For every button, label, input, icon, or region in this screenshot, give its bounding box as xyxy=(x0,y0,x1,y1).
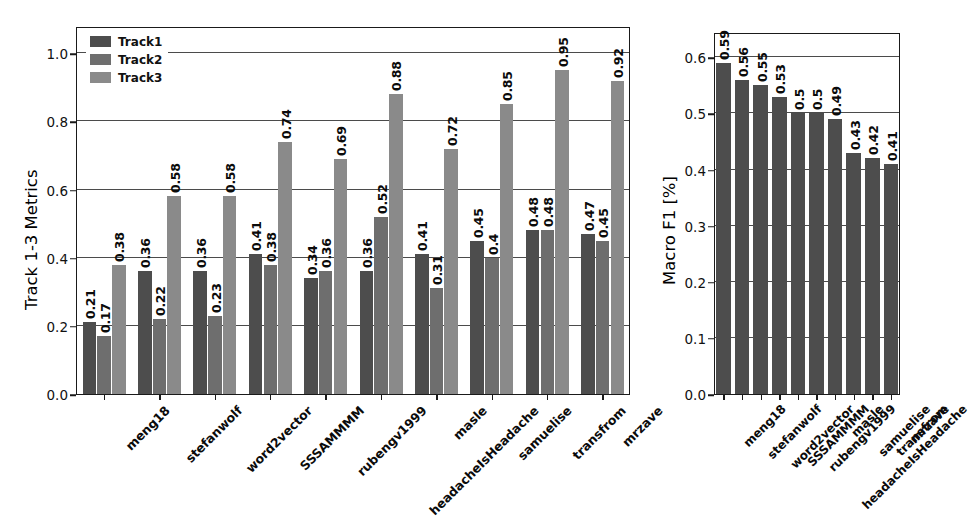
x-tick-mark xyxy=(891,395,893,400)
legend-label-track2: Track2 xyxy=(118,53,162,67)
bar xyxy=(304,278,318,394)
bar xyxy=(83,322,97,394)
bar xyxy=(415,254,429,394)
gridline xyxy=(77,120,629,121)
legend-item: Track3 xyxy=(90,70,162,85)
x-tick-mark xyxy=(723,395,725,400)
y-tick-label: 0.8 xyxy=(47,114,68,130)
bar xyxy=(772,97,787,394)
bar xyxy=(389,94,403,394)
x-tick-mark xyxy=(270,395,272,400)
bar xyxy=(112,265,126,394)
bar xyxy=(865,158,880,394)
bar xyxy=(167,196,181,394)
y-tick-label: 0.1 xyxy=(685,331,706,347)
bar xyxy=(846,153,861,394)
y-tick-label: 0.4 xyxy=(685,163,706,179)
x-tick-mark xyxy=(602,395,604,400)
bar xyxy=(374,217,388,394)
bar xyxy=(319,271,333,394)
bar xyxy=(828,119,843,394)
bar xyxy=(444,149,458,394)
y-tick-label: 0.3 xyxy=(685,219,706,235)
x-tick-mark xyxy=(872,395,874,400)
x-tick-mark xyxy=(381,395,383,400)
bar xyxy=(470,241,484,394)
legend-swatch-track1 xyxy=(90,36,111,47)
y-tick-label: 0.6 xyxy=(47,183,68,199)
x-tick-mark xyxy=(159,395,161,400)
x-category-label: meng18 xyxy=(122,403,172,453)
x-tick-mark xyxy=(798,395,800,400)
x-tick-mark xyxy=(492,395,494,400)
right-y-axis-title: Macro F1 [%] xyxy=(660,176,679,285)
x-tick-mark xyxy=(761,395,763,400)
bar xyxy=(430,288,444,394)
bar xyxy=(716,63,731,394)
y-tick-label: 0.2 xyxy=(47,319,68,335)
bar xyxy=(791,113,806,394)
bar xyxy=(555,70,569,394)
legend-label-track3: Track3 xyxy=(118,71,162,85)
x-tick-mark xyxy=(325,395,327,400)
bar xyxy=(611,81,625,394)
bar xyxy=(581,234,595,394)
x-category-label: masle xyxy=(450,403,490,443)
bar xyxy=(884,164,899,394)
y-tick-label: 1.0 xyxy=(47,46,68,62)
y-tick-label: 0.0 xyxy=(685,387,706,403)
bar xyxy=(97,336,111,394)
y-tick-label: 0.5 xyxy=(685,106,706,122)
y-tick-label: 0.6 xyxy=(685,50,706,66)
x-tick-mark xyxy=(779,395,781,400)
right-plot-area: 0.590.560.550.530.50.50.490.430.420.41 xyxy=(714,33,900,395)
x-tick-mark xyxy=(104,395,106,400)
bar xyxy=(809,113,824,394)
bar xyxy=(485,258,499,394)
x-tick-mark xyxy=(816,395,818,400)
bar xyxy=(334,159,348,394)
legend-item: Track2 xyxy=(90,52,162,67)
x-tick-mark xyxy=(854,395,856,400)
legend-swatch-track3 xyxy=(90,72,111,83)
bar xyxy=(249,254,263,394)
bar xyxy=(138,271,152,394)
bar xyxy=(735,80,750,394)
x-tick-mark xyxy=(742,395,744,400)
bar xyxy=(153,319,167,394)
bar xyxy=(208,316,222,394)
x-category-label: transfrom xyxy=(569,403,629,463)
legend-swatch-track2 xyxy=(90,54,111,65)
x-tick-mark xyxy=(215,395,217,400)
legend-item: Track1 xyxy=(90,34,162,49)
bar xyxy=(264,265,278,394)
left-y-axis-title: Track 1-3 Metrics xyxy=(22,169,41,310)
y-tick-label: 0.0 xyxy=(47,387,68,403)
left-legend: Track1 Track2 Track3 xyxy=(86,31,168,91)
x-tick-mark xyxy=(835,395,837,400)
bar xyxy=(223,196,237,394)
bar xyxy=(360,271,374,394)
bar xyxy=(526,230,540,394)
y-tick-label: 0.2 xyxy=(685,275,706,291)
bar xyxy=(193,271,207,394)
x-tick-mark xyxy=(436,395,438,400)
gridline xyxy=(77,189,629,190)
bar xyxy=(541,230,555,394)
legend-label-track1: Track1 xyxy=(118,35,162,49)
x-category-label: stefanwolf xyxy=(183,403,246,466)
bar xyxy=(596,241,610,394)
y-tick-label: 0.4 xyxy=(47,251,68,267)
x-tick-mark xyxy=(547,395,549,400)
bar xyxy=(500,104,514,394)
bar xyxy=(753,85,768,394)
bar xyxy=(278,142,292,394)
